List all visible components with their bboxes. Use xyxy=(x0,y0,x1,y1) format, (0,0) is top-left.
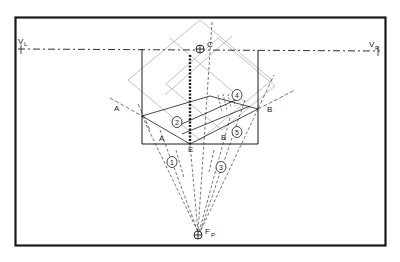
label-b-inner: B xyxy=(221,133,226,142)
extension-lines xyxy=(110,75,295,130)
svg-text:5: 5 xyxy=(235,129,239,136)
label-a-inner: A xyxy=(159,134,165,143)
step-1-marker: 1 xyxy=(167,157,177,168)
label-station-point-sub: P xyxy=(211,232,215,238)
svg-text:2: 2 xyxy=(175,119,179,126)
svg-text:4: 4 xyxy=(235,92,239,99)
label-a-outer: A xyxy=(114,104,120,113)
step-5-marker: 5 xyxy=(232,127,242,138)
station-point-icon xyxy=(194,231,202,239)
svg-text:3: 3 xyxy=(219,164,223,171)
step-2-marker: 2 xyxy=(172,117,182,128)
step-3-marker: 3 xyxy=(216,162,226,173)
construction-squares xyxy=(128,20,275,140)
label-center: C xyxy=(207,40,213,49)
step-4-marker: 4 xyxy=(232,90,242,101)
center-of-vision-icon xyxy=(196,45,204,53)
label-vanishing-left-sub: L xyxy=(24,41,28,47)
perspective-diagram: C F P V L V R A A B B E 1 2 3 4 5 xyxy=(0,0,400,262)
label-b-outer: B xyxy=(267,105,272,114)
label-vanishing-right-sub: R xyxy=(375,45,380,51)
label-point-e: E xyxy=(188,145,193,154)
label-station-point: F xyxy=(205,227,210,236)
svg-text:1: 1 xyxy=(170,159,174,166)
